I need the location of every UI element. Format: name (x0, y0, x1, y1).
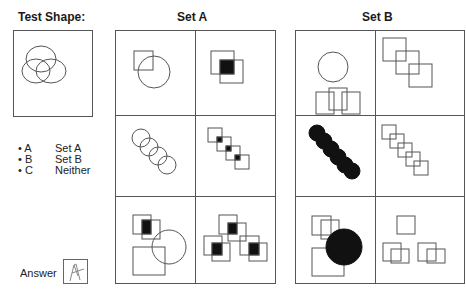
set-a-cell-4 (196, 116, 275, 196)
three-overlapping-circles-icon (14, 31, 94, 118)
set-b-cell-5 (296, 197, 375, 283)
set-b-cell-6 (376, 197, 464, 283)
set-b-cell-3 (296, 116, 375, 196)
option-letter: C (25, 164, 33, 176)
handwritten-a-icon (64, 260, 89, 285)
set-b-cell-1 (296, 31, 375, 115)
set-a-grid (115, 30, 276, 284)
set-b-cell-4 (376, 116, 464, 196)
option-c-label: Neither (55, 165, 90, 176)
set-a-cell-1 (116, 31, 195, 115)
set-b-cell-2 (376, 31, 464, 115)
set-a-cell-6 (196, 197, 275, 283)
bullet-icon: • (18, 164, 22, 176)
set-b-title: Set B (362, 10, 393, 24)
set-a-cell-5 (116, 197, 195, 283)
answer-input[interactable] (63, 259, 88, 284)
test-shape-box (13, 30, 93, 117)
option-c[interactable]: • C (18, 165, 33, 176)
set-a-cell-2 (196, 31, 275, 115)
set-a-title: Set A (177, 10, 207, 24)
set-b-grid (295, 30, 465, 284)
test-shape-title: Test Shape: (18, 10, 85, 24)
set-a-cell-3 (116, 116, 195, 196)
answer-label: Answer (20, 268, 57, 279)
